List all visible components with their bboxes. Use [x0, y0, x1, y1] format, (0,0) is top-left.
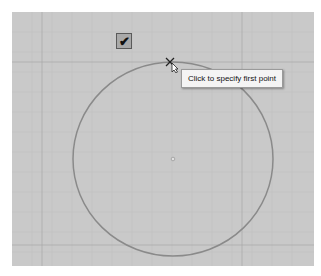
confirm-button[interactable]: ✔	[116, 33, 132, 49]
center-point-marker	[171, 157, 175, 161]
tooltip: Click to specify first point	[181, 69, 283, 88]
crosshair-cursor-icon	[165, 57, 179, 73]
checkmark-icon: ✔	[119, 35, 130, 48]
grid	[12, 12, 314, 266]
drawing-canvas[interactable]: ✔ Click to specify first point	[12, 12, 314, 266]
